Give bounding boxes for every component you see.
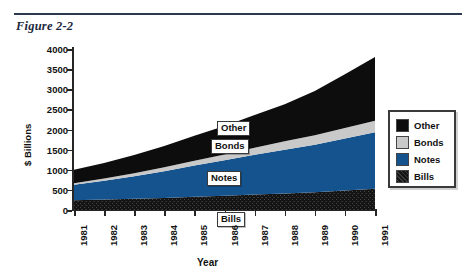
x-tick-label: 1984 xyxy=(168,225,179,246)
y-axis-tick xyxy=(67,130,72,132)
y-axis-tick xyxy=(67,150,72,152)
x-tick-label: 1989 xyxy=(319,225,330,246)
y-tick-label: 2000 xyxy=(47,124,68,135)
x-tick-label: 1985 xyxy=(198,225,209,246)
x-axis-labels: 1981198219831984198519861987198819891990… xyxy=(74,214,375,254)
legend-label: Notes xyxy=(414,154,440,165)
y-tick-label: 1500 xyxy=(47,144,68,155)
y-axis-tick xyxy=(67,190,72,192)
legend-swatch-bonds-icon xyxy=(396,136,409,149)
legend-label: Other xyxy=(414,120,439,131)
legend-item-notes[interactable]: Notes xyxy=(396,151,450,168)
y-tick-label: 3000 xyxy=(47,84,68,95)
y-axis-tick xyxy=(67,109,72,111)
figure-title: Figure 2-2 xyxy=(16,19,73,34)
x-tick-label: 1982 xyxy=(108,225,119,246)
legend-item-bonds[interactable]: Bonds xyxy=(396,134,450,151)
y-axis-tick xyxy=(67,89,72,91)
header-rule xyxy=(14,13,462,15)
legend-label: Bills xyxy=(414,171,434,182)
y-tick-label: 4000 xyxy=(47,44,68,55)
figure-container: Figure 2-2 05001000150020002500300035004… xyxy=(0,0,470,278)
y-tick-label: 500 xyxy=(52,184,68,195)
y-axis-tick xyxy=(67,69,72,71)
callout-other: Other xyxy=(217,121,250,136)
x-tick-label: 1983 xyxy=(138,225,149,246)
legend-item-bills[interactable]: Bills xyxy=(396,168,450,185)
legend-swatch-notes-icon xyxy=(396,153,409,166)
x-tick-label: 1986 xyxy=(229,225,240,246)
x-axis-tick xyxy=(375,211,377,216)
legend-swatch-bills-icon xyxy=(396,170,409,183)
callout-bonds: Bonds xyxy=(211,139,249,154)
legend: OtherBondsNotesBills xyxy=(388,110,456,188)
y-tick-label: 1000 xyxy=(47,164,68,175)
legend-label: Bonds xyxy=(414,137,444,148)
y-axis-tick xyxy=(67,170,72,172)
x-tick-label: 1988 xyxy=(289,225,300,246)
callout-notes: Notes xyxy=(207,171,241,186)
y-tick-label: 2500 xyxy=(47,104,68,115)
x-axis-title: Year xyxy=(197,257,218,268)
y-tick-label: 3500 xyxy=(47,64,68,75)
y-axis-labels: 05001000150020002500300035004000 xyxy=(0,49,68,210)
y-axis-tick xyxy=(67,49,72,51)
y-axis-title: $ Billions xyxy=(22,124,33,166)
x-tick-label: 1990 xyxy=(349,225,360,246)
legend-item-other[interactable]: Other xyxy=(396,117,450,134)
legend-swatch-other-icon xyxy=(396,119,409,132)
x-tick-label: 1987 xyxy=(259,225,270,246)
x-tick-label: 1991 xyxy=(379,225,390,246)
x-tick-label: 1981 xyxy=(78,225,89,246)
